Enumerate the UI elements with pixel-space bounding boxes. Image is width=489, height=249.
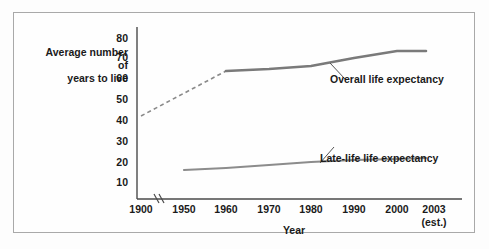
y-tick-label-60: 60 [106, 72, 128, 84]
overall-line-dashed-segment [141, 71, 226, 116]
chart-frame: Average number ofyears to live 80 70 60 … [13, 12, 475, 233]
x-tick-label-1970: 1970 [247, 203, 291, 216]
x-tick-label-2003-year: 2003 [422, 203, 445, 215]
x-tick-label-2003-est: (est.) [412, 216, 456, 229]
y-tick-label-10: 10 [106, 176, 128, 188]
y-tick-label-70: 70 [106, 51, 128, 63]
x-tick-label-1900: 1900 [119, 203, 163, 216]
y-tick-label-20: 20 [106, 156, 128, 168]
x-tick-label-1950: 1950 [162, 203, 206, 216]
x-tick-label-1980: 1980 [289, 203, 333, 216]
x-tick-label-1960: 1960 [204, 203, 248, 216]
figure-container: Average number ofyears to live 80 70 60 … [0, 0, 489, 249]
late-life-expectancy-annotation: Late-life life expectancy [320, 152, 438, 164]
overall-life-expectancy-annotation: Overall life expectancy [330, 73, 444, 85]
x-tick-label-1990: 1990 [332, 203, 376, 216]
y-tick-label-40: 40 [106, 114, 128, 126]
x-tick-label-2003: 2003(est.) [412, 203, 456, 229]
x-axis-title: Year [250, 224, 338, 237]
y-tick-label-30: 30 [106, 135, 128, 147]
y-tick-label-80: 80 [106, 32, 128, 44]
y-tick-label-50: 50 [106, 93, 128, 105]
overall-life-expectancy-line [226, 51, 426, 71]
